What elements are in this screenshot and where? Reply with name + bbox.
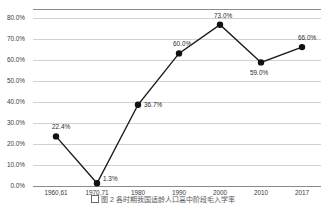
data-point-marker[interactable]	[94, 180, 100, 186]
data-point-marker[interactable]	[258, 59, 264, 65]
data-label-2000: 73.0%	[214, 12, 232, 19]
data-point-marker[interactable]	[53, 133, 59, 139]
data-point-marker[interactable]	[176, 50, 182, 56]
series-line	[56, 25, 302, 184]
y-tick-label-20: 20.0%	[0, 140, 25, 147]
x-axis-line	[33, 186, 321, 187]
y-tick-label-50: 50.0%	[0, 77, 25, 84]
data-label-2010: 59.0%	[250, 69, 268, 76]
y-tick-label-70: 70.0%	[0, 35, 25, 42]
plot-area: 80.0% 70.0% 60.0% 50.0% 40.0% 30.0% 20.0…	[33, 9, 321, 186]
data-point-marker[interactable]	[217, 22, 223, 28]
figure-caption: 图 2 各时期我国适龄人口高中阶段毛入学率	[0, 195, 326, 205]
y-tick-label-0: 0.0%	[0, 182, 25, 189]
y-tick-label-80: 80.0%	[0, 14, 25, 21]
data-label-1960: 22.4%	[52, 123, 70, 130]
caption-marker-icon	[91, 195, 99, 203]
caption-text: 图 2 各时期我国适龄人口高中阶段毛入学率	[101, 196, 235, 203]
data-label-1970: 1.3%	[103, 175, 118, 182]
series-line-chart	[33, 9, 321, 186]
data-point-marker[interactable]	[135, 102, 141, 108]
data-point-marker[interactable]	[299, 44, 305, 50]
y-tick-label-60: 60.0%	[0, 56, 25, 63]
data-label-1980: 36.7%	[144, 101, 162, 108]
y-tick-label-10: 10.0%	[0, 161, 25, 168]
data-label-1990: 60.0%	[173, 40, 191, 47]
chart-figure: 80.0% 70.0% 60.0% 50.0% 40.0% 30.0% 20.0…	[0, 0, 326, 205]
y-tick-label-40: 40.0%	[0, 98, 25, 105]
y-tick-label-30: 30.0%	[0, 119, 25, 126]
data-label-2017: 66.0%	[298, 34, 316, 41]
